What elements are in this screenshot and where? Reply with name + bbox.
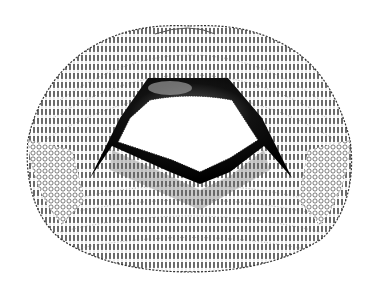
upper-rim-highlight <box>148 81 192 95</box>
illustration-canvas <box>0 0 380 292</box>
organism-illustration <box>0 0 380 292</box>
